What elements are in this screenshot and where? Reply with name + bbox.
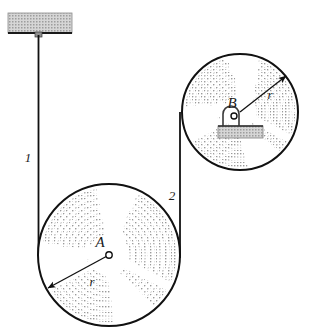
cord-one xyxy=(35,32,42,256)
pulley-diagram-figure: A r xyxy=(0,0,320,332)
cord-two-label: 2 xyxy=(169,188,176,203)
pulley-a-center-label: A xyxy=(94,234,105,250)
pulley-b-base-block xyxy=(218,126,263,138)
pulley-a: A r xyxy=(38,178,180,326)
diagram-canvas: A r xyxy=(0,0,320,332)
pulley-a-hub xyxy=(106,252,112,258)
pulley-b: B r xyxy=(182,48,298,170)
ceiling-support-block xyxy=(8,13,72,33)
pulley-b-center-label: B xyxy=(227,95,236,111)
pulley-b-hub xyxy=(231,113,237,119)
cord-one-label: 1 xyxy=(25,150,32,165)
